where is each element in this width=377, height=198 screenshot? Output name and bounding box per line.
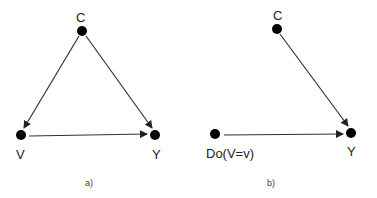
edge-v-y (29, 134, 147, 136)
edge-c-v (24, 36, 79, 128)
node-c (272, 24, 282, 34)
label-c-b: C (273, 9, 282, 22)
edge-do-y (224, 134, 343, 135)
causal-diagrams (0, 0, 377, 198)
edge-c-y (280, 34, 348, 126)
node-y (346, 128, 356, 138)
node-do (210, 129, 220, 139)
edge-c-y (86, 36, 152, 128)
caption-a: a) (85, 179, 93, 188)
diagram-a (16, 26, 160, 140)
diagram-b (210, 24, 356, 139)
node-c (77, 26, 87, 36)
label-c-a: C (76, 11, 85, 24)
label-do-b: Do(V=v) (206, 147, 254, 160)
caption-b: b) (267, 179, 275, 188)
label-y-b: Y (347, 145, 356, 158)
node-v (16, 130, 26, 140)
label-v-a: V (16, 148, 25, 161)
node-y (150, 130, 160, 140)
label-y-a: Y (152, 148, 161, 161)
